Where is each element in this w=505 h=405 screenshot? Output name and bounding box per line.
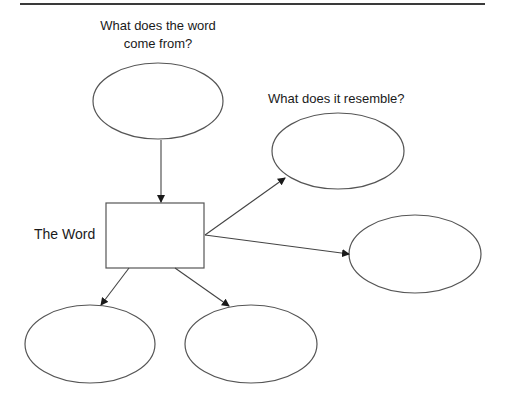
arrow-word-to-resemble-1 <box>205 178 285 235</box>
word-map-diagram <box>0 0 505 405</box>
bottom-left-ellipse-node[interactable] <box>25 305 155 383</box>
resemble-ellipse-node-2[interactable] <box>349 215 481 293</box>
resemble-ellipse-node-1[interactable] <box>272 113 404 189</box>
arrow-word-to-bottom-right <box>175 268 229 306</box>
arrow-word-to-resemble-2 <box>205 235 349 254</box>
arrow-word-to-bottom-left <box>101 268 129 305</box>
bottom-right-ellipse-node[interactable] <box>185 305 317 383</box>
word-box-node[interactable] <box>106 203 204 268</box>
origin-ellipse-node[interactable] <box>93 63 223 139</box>
